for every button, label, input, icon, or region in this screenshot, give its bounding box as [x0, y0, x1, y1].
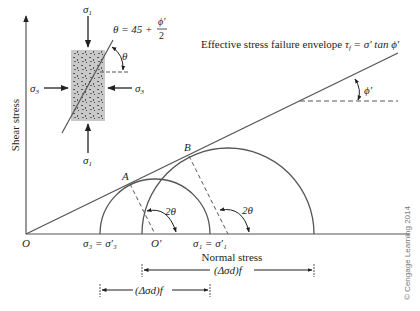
mohr-circle-diagram: Shear stress O Normal stress ϕ′ Effectiv… [0, 0, 420, 311]
sigma1-top-label: σ1 [83, 3, 92, 17]
sigma1-bottom-label: σ1 [83, 154, 92, 168]
point-b-label: B [184, 141, 191, 153]
sigma1-axis-label: σ₁ = σ′₁ [193, 237, 227, 249]
angle-label-small: 2θ [165, 205, 177, 217]
theta-label: θ [122, 50, 128, 62]
y-axis-label: Shear stress [9, 99, 21, 151]
sigma3-right-label: σ3 [135, 82, 144, 96]
theta-fraction-numerator: ϕ′ [158, 16, 166, 27]
sigma3-left-label: σ3 [30, 82, 39, 96]
mohr-circle-small [100, 179, 210, 234]
x-axis-label: Normal stress [202, 251, 263, 263]
point-a-label: A [121, 170, 129, 182]
soil-specimen [44, 16, 132, 153]
dimension-upper-label: (Δσd)f [214, 264, 244, 277]
envelope-label-text: Effective stress failure envelope [201, 38, 345, 50]
angle-label-large: 2θ [242, 204, 254, 216]
envelope-equation-rhs: = σ′ tan ϕ′ [351, 38, 400, 50]
envelope-label: Effective stress failure envelope τf = σ… [201, 38, 400, 52]
center-label: O′ [151, 237, 162, 249]
envelope-angle-label: ϕ′ [364, 84, 373, 96]
origin-label: O [22, 237, 30, 249]
mohr-circle-large [142, 148, 314, 234]
copyright-notice: © Cengage Learning 2014 [403, 205, 412, 300]
sigma3-axis-label: σ₃ = σ′₃ [83, 237, 117, 249]
dimension-lower-label: (Δσd)f [135, 284, 165, 297]
theta-equation: θ = 45 + [113, 23, 153, 35]
theta-fraction-denominator: 2 [159, 30, 164, 41]
